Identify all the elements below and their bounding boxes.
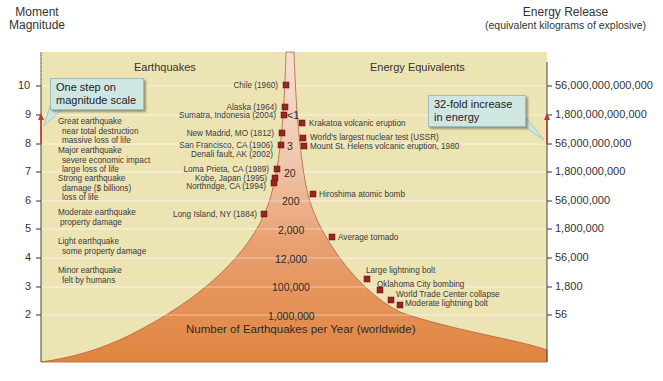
- category-great-title: Great earthquake: [58, 117, 138, 127]
- left-tick-7: 7: [25, 165, 31, 177]
- category-moderate-title: Moderate earthquake: [58, 208, 136, 218]
- category-strong-title: Strong earthquake: [58, 174, 131, 184]
- category-strong: Strong earthquake damage ($ billions) lo…: [58, 174, 131, 203]
- energy-label-mount-st-helens: Mount St. Helens volcanic eruption, 1980: [310, 142, 459, 152]
- right-tick-3: 1,800,000,000: [555, 165, 625, 177]
- count-mag-2: 1,000,000: [268, 310, 315, 322]
- category-major: Major earthquake severe economic impact …: [58, 146, 150, 175]
- count-mag-8: 3: [287, 140, 293, 152]
- category-minor-desc1: felt by humans: [58, 276, 122, 286]
- category-minor: Minor earthquake felt by humans: [58, 266, 122, 285]
- left-tick-3: 3: [25, 280, 31, 292]
- earthquake-label-sumatra: Sumatra, Indonesia (2004): [179, 111, 276, 121]
- right-tick-2: 56,000,000,000: [555, 137, 631, 149]
- left-tick-5: 5: [25, 222, 31, 234]
- callout-magnitude-step: One step on magnitude scale: [50, 78, 144, 110]
- category-light-title: Light earthquake: [58, 237, 146, 247]
- energy-label-tornado: Average tornado: [338, 233, 398, 243]
- category-great: Great earthquake near total destruction …: [58, 117, 138, 146]
- right-tick-5: 1,800,000: [555, 222, 604, 234]
- section-title-energy-equivalents: Energy Equivalents: [370, 61, 465, 73]
- category-light: Light earthquake some property damage: [58, 237, 146, 256]
- right-tick-8: 56: [555, 308, 567, 320]
- callout-energy-increase: 32-fold increase in energy: [428, 95, 526, 127]
- callout-right-line1: 32-fold increase: [434, 98, 520, 111]
- category-strong-desc2: loss of life: [58, 193, 131, 203]
- left-tick-4: 4: [25, 251, 31, 263]
- category-strong-desc1: damage ($ billions): [58, 184, 131, 194]
- count-mag-5: 2,000: [278, 224, 304, 236]
- right-tick-4: 56,000,000: [555, 194, 610, 206]
- callout-left-line2: magnitude scale: [56, 94, 138, 107]
- category-moderate-desc1: property damage: [58, 218, 136, 228]
- energy-label-moderate-lightning: Moderate lightning bolt: [405, 299, 488, 309]
- category-major-desc1: severe economic impact: [58, 156, 150, 166]
- right-tick-6: 56,000: [555, 251, 589, 263]
- right-tick-1: 1,800,000,000,000: [555, 108, 647, 120]
- earthquake-label-denali: Denali fault, AK (2002): [191, 150, 273, 160]
- count-mag-3: 100,000: [272, 281, 310, 293]
- count-mag-4: 12,000: [275, 253, 307, 265]
- earthquake-label-northridge: Northridge, CA (1994): [186, 182, 266, 192]
- frequency-axis-label: Number of Earthquakes per Year (worldwid…: [186, 323, 415, 335]
- category-major-title: Major earthquake: [58, 146, 150, 156]
- energy-label-large-lightning: Large lightning bolt: [366, 266, 435, 276]
- left-tick-9: 9: [25, 108, 31, 120]
- category-great-desc1: near total destruction: [58, 127, 138, 137]
- right-tick-0: 56,000,000,000,000: [555, 79, 653, 91]
- energy-label-hiroshima: Hiroshima atomic bomb: [319, 190, 405, 200]
- earthquake-label-chile: Chile (1960): [233, 81, 278, 91]
- count-mag-9: <1: [287, 109, 299, 121]
- energy-label-oklahoma-city: Oklahoma City bombing: [377, 280, 464, 290]
- callout-right-line2: in energy: [434, 111, 520, 124]
- energy-label-krakatoa: Krakatoa volcanic eruption: [309, 119, 406, 129]
- count-mag-7: 20: [284, 167, 296, 179]
- count-mag-6: 200: [282, 195, 300, 207]
- category-light-desc1: some property damage: [58, 247, 146, 257]
- right-tick-7: 1,800: [555, 280, 583, 292]
- left-tick-6: 6: [25, 194, 31, 206]
- callout-left-line1: One step on: [56, 81, 138, 94]
- left-tick-2: 2: [25, 308, 31, 320]
- category-moderate: Moderate earthquake property damage: [58, 208, 136, 227]
- category-great-desc2: massive loss of life: [58, 136, 138, 146]
- category-minor-title: Minor earthquake: [58, 266, 122, 276]
- left-tick-10: 10: [18, 79, 30, 91]
- earthquake-label-new-madrid: New Madrid, MO (1812): [187, 129, 274, 139]
- section-title-earthquakes: Earthquakes: [134, 61, 196, 73]
- earthquake-label-long-island: Long Island, NY (1884): [173, 210, 257, 220]
- left-tick-8: 8: [25, 137, 31, 149]
